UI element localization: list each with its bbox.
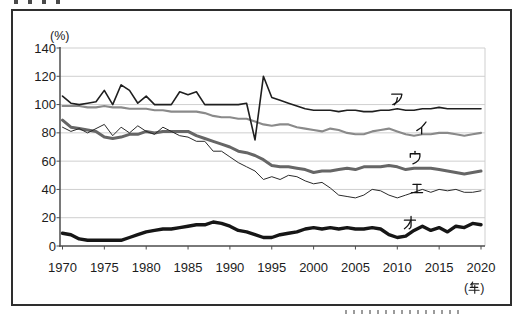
y-tick-label-120: 120 (18, 69, 56, 84)
y-tick-label-100: 100 (18, 97, 56, 112)
series-label-u-glyph (408, 150, 422, 165)
x-tick-label-1985: 1985 (167, 260, 209, 275)
x-tick-label-1995: 1995 (251, 260, 293, 275)
x-tick-label-2000: 2000 (293, 260, 335, 275)
series-label-o (403, 214, 417, 232)
series-label-e-glyph (410, 181, 424, 196)
x-tick-label-2010: 2010 (376, 260, 418, 275)
x-tick-label-1975: 1975 (83, 260, 125, 275)
x-axis-unit-glyph (468, 281, 480, 294)
x-tick-label-2005: 2005 (334, 260, 376, 275)
x-tick-label-2020: 2020 (460, 260, 502, 275)
series-label-o-glyph (403, 215, 417, 230)
x-axis-unit-char: ) (480, 281, 484, 295)
series-label-i (415, 119, 429, 137)
y-tick-label-60: 60 (18, 154, 56, 169)
chart-figure: (%) () 020406080100120140197019751980198… (0, 0, 522, 317)
y-tick-label-40: 40 (18, 182, 56, 197)
series-label-e (410, 180, 424, 198)
y-tick-label-0: 0 (18, 239, 56, 254)
series-label-i-glyph (415, 120, 429, 135)
y-tick-label-20: 20 (18, 210, 56, 225)
y-tick-label-140: 140 (18, 41, 56, 56)
x-tick-label-1970: 1970 (42, 260, 84, 275)
x-tick-label-1980: 1980 (125, 260, 167, 275)
series-label-a-glyph (390, 91, 404, 106)
x-tick-label-1990: 1990 (209, 260, 251, 275)
series-label-a (390, 90, 404, 108)
x-axis-unit-label: () (464, 281, 484, 296)
series-line-o (63, 222, 482, 240)
y-tick-label-80: 80 (18, 125, 56, 140)
x-tick-label-2015: 2015 (418, 260, 460, 275)
cutoff-text-fragment-bottom (345, 310, 463, 314)
series-label-u (408, 149, 422, 167)
